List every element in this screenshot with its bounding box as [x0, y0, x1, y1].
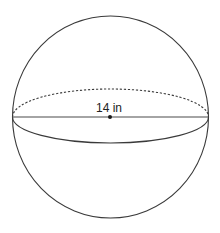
diameter-label: 14 in [96, 101, 122, 115]
center-point [108, 115, 112, 119]
sphere-diagram: 14 in [0, 0, 220, 233]
equator-front-solid [13, 117, 209, 143]
